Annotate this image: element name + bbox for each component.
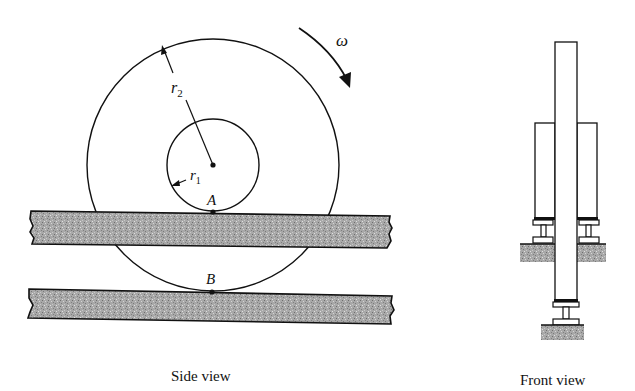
left-hub [535,123,555,218]
left-i-beam-rail [533,220,553,243]
r1-label: r1 [190,167,201,186]
right-hub [577,123,597,218]
r2-dimension-line [186,100,213,165]
r2-arrowhead-icon [161,45,167,55]
point-b-label: B [206,271,215,287]
point-b-marker [209,289,214,294]
right-i-beam-rail [579,220,599,243]
side-view: r2 r1 A B ω Side view [28,28,394,384]
lower-ground [541,325,584,340]
diagram-canvas: r2 r1 A B ω Side view [0,0,635,391]
r2-label: r2 [171,79,183,99]
outer-wheel-front [555,42,577,300]
lower-i-beam-rail [553,302,579,325]
point-a-marker [210,209,215,214]
front-view: Front view [520,42,606,388]
upper-rail [30,211,392,248]
r1-arrowhead-icon [171,180,180,186]
point-a-label: A [206,192,217,208]
omega-label: ω [336,31,348,50]
side-view-caption: Side view [171,368,231,384]
front-view-caption: Front view [520,372,586,388]
